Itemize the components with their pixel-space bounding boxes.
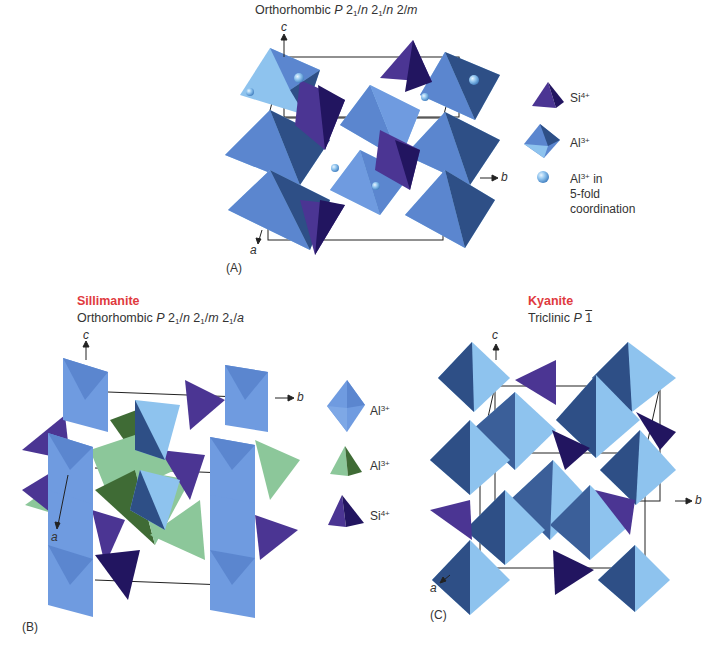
axis-c-label-c: c [492,328,498,342]
structure-diagram-c [0,0,725,645]
axis-b-label-c: b [695,493,702,507]
panel-label-c: (C) [430,608,447,622]
axis-a-label-c: a [430,581,437,595]
